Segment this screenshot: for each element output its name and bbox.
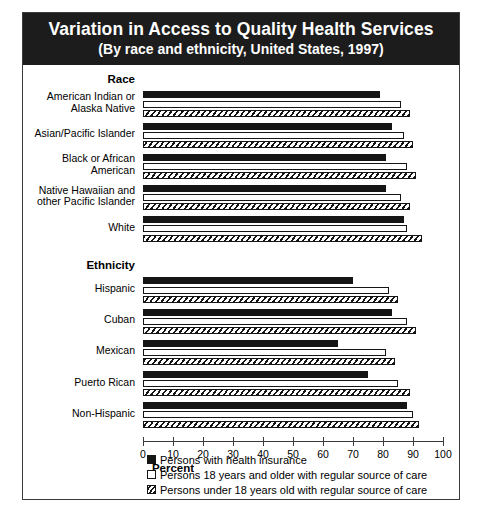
x-tick xyxy=(143,442,144,446)
chart-legend: Persons with health insurance Persons 18… xyxy=(147,453,427,498)
x-tick xyxy=(413,442,414,446)
x-tick-upper xyxy=(443,437,444,441)
legend-label: Persons 18 years and older with regular … xyxy=(160,469,427,481)
bar-solid-black xyxy=(143,402,407,409)
x-tick xyxy=(263,442,264,446)
x-tick-upper xyxy=(323,437,324,441)
x-tick-upper xyxy=(383,437,384,441)
x-tick xyxy=(173,442,174,446)
category-label: Asian/Pacific Islander xyxy=(23,128,135,140)
category-label: Hispanic xyxy=(23,283,135,295)
chart-title-line1: Variation in Access to Quality Health Se… xyxy=(29,20,453,40)
legend-swatch-solid-black-icon xyxy=(147,455,156,464)
bar-open-white xyxy=(143,194,401,201)
bar-hatched xyxy=(143,421,419,428)
x-tick-upper xyxy=(203,437,204,441)
bar-open-white xyxy=(143,132,404,139)
chart-figure: Variation in Access to Quality Health Se… xyxy=(22,12,460,500)
category-label: Black or African American xyxy=(23,153,135,177)
bar-solid-black xyxy=(143,123,392,130)
legend-item: Persons 18 years and older with regular … xyxy=(147,468,427,481)
bar-open-white xyxy=(143,225,407,232)
group-header-race: Race xyxy=(23,73,135,85)
x-tick-upper xyxy=(233,437,234,441)
category-label: Cuban xyxy=(23,314,135,326)
bar-group xyxy=(143,340,443,365)
bar-group xyxy=(143,123,443,148)
bar-solid-black xyxy=(143,277,353,284)
x-tick xyxy=(443,442,444,446)
bar-open-white xyxy=(143,318,407,325)
category-label: Non-Hispanic xyxy=(23,408,135,420)
x-tick-label: 100 xyxy=(430,448,456,460)
bar-solid-black xyxy=(143,216,404,223)
bar-open-white xyxy=(143,101,401,108)
legend-item: Persons with health insurance xyxy=(147,453,427,466)
legend-swatch-open-white-icon xyxy=(147,470,156,479)
category-label: Mexican xyxy=(23,345,135,357)
x-tick-upper xyxy=(263,437,264,441)
bar-group xyxy=(143,309,443,334)
bar-hatched xyxy=(143,389,410,396)
chart-subtitle-line2: (By race and ethnicity, United States, 1… xyxy=(29,41,453,58)
category-label: Native Hawaiian and other Pacific Island… xyxy=(23,185,135,209)
x-tick xyxy=(323,442,324,446)
bar-group xyxy=(143,402,443,427)
x-tick-upper xyxy=(293,437,294,441)
bar-hatched xyxy=(143,110,410,117)
x-tick xyxy=(383,442,384,446)
bar-solid-black xyxy=(143,185,386,192)
x-tick-upper xyxy=(353,437,354,441)
bar-solid-black xyxy=(143,154,386,161)
legend-swatch-hatched-icon xyxy=(147,485,156,494)
x-tick-upper xyxy=(173,437,174,441)
bar-group xyxy=(143,154,443,179)
bar-solid-black xyxy=(143,91,380,98)
bar-hatched xyxy=(143,172,416,179)
bar-hatched xyxy=(143,235,422,242)
bar-group xyxy=(143,371,443,396)
x-tick xyxy=(293,442,294,446)
x-tick-upper xyxy=(143,437,144,441)
bar-solid-black xyxy=(143,309,392,316)
legend-label: Persons with health insurance xyxy=(160,454,307,466)
bar-open-white xyxy=(143,287,389,294)
bar-open-white xyxy=(143,411,413,418)
x-tick-upper xyxy=(413,437,414,441)
bar-group xyxy=(143,91,443,116)
bar-group xyxy=(143,216,443,241)
bar-group xyxy=(143,277,443,302)
bar-hatched xyxy=(143,358,395,365)
bar-group xyxy=(143,185,443,210)
bar-hatched xyxy=(143,296,398,303)
bar-hatched xyxy=(143,327,416,334)
legend-label: Persons under 18 years old with regular … xyxy=(160,484,427,496)
bar-hatched xyxy=(143,141,413,148)
bar-open-white xyxy=(143,163,407,170)
chart-title-banner: Variation in Access to Quality Health Se… xyxy=(23,13,459,65)
bar-open-white xyxy=(143,380,398,387)
x-tick xyxy=(353,442,354,446)
x-tick xyxy=(233,442,234,446)
group-header-ethnicity: Ethnicity xyxy=(23,259,135,271)
bar-open-white xyxy=(143,349,386,356)
bar-solid-black xyxy=(143,340,338,347)
plot-area: RaceAmerican Indian or Alaska NativeAsia… xyxy=(23,65,459,482)
bar-hatched xyxy=(143,203,410,210)
category-label: American Indian or Alaska Native xyxy=(23,91,135,115)
category-label: White xyxy=(23,222,135,234)
category-label: Puerto Rican xyxy=(23,377,135,389)
legend-item: Persons under 18 years old with regular … xyxy=(147,483,427,496)
bar-solid-black xyxy=(143,371,368,378)
x-tick xyxy=(203,442,204,446)
